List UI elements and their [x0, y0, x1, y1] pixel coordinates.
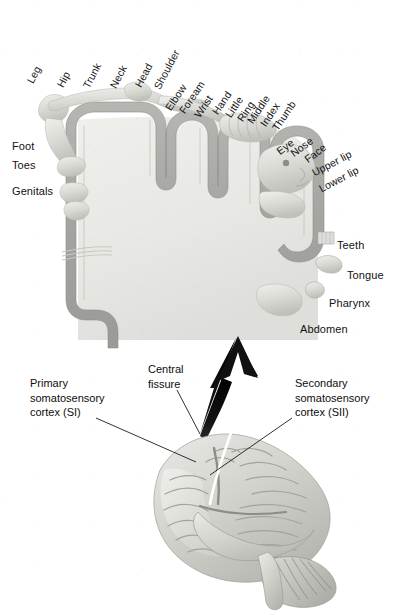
direction-arrow	[200, 336, 258, 440]
callout-line: cortex (SI)	[30, 405, 105, 420]
homunculus-label-toes: Toes	[12, 158, 36, 172]
callout-line: Primary	[30, 376, 105, 391]
leader-primary-si	[96, 418, 196, 462]
callout-line: Central	[148, 362, 183, 377]
brain-callout-central-fissure: Centralfissure	[148, 362, 183, 391]
callout-line: somatosensory	[295, 391, 370, 406]
brain-callout-secondary-somatosensory-cortex: Secondarysomatosensorycortex (SII)	[295, 376, 370, 420]
homunculus-label-teeth: Teeth	[337, 238, 364, 252]
leader-central-fissure	[177, 390, 200, 434]
homunculus-label-foot: Foot	[12, 139, 34, 153]
homunculus-label-pharynx: Pharynx	[329, 296, 370, 310]
cortical-cross-section	[38, 82, 342, 348]
homunculus-label-abdomen: Abdomen	[300, 322, 348, 336]
homunculus-label-tongue: Tongue	[347, 268, 384, 282]
callout-line: fissure	[148, 377, 183, 392]
lateral-brain-illustration	[154, 430, 336, 610]
homunculus-label-genitals: Genitals	[12, 184, 53, 198]
callout-line: somatosensory	[30, 391, 105, 406]
callout-line: Secondary	[295, 376, 370, 391]
callout-line: cortex (SII)	[295, 405, 370, 420]
brain-callout-primary-somatosensory-cortex: Primarysomatosensorycortex (SI)	[30, 376, 105, 420]
